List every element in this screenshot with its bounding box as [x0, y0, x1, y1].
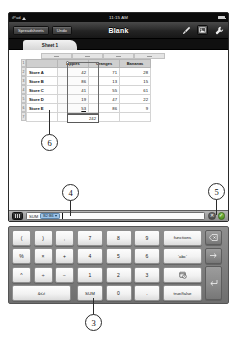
key-plus[interactable]: +	[55, 248, 74, 264]
spreadsheets-button[interactable]: Spreadsheets	[13, 26, 49, 35]
paintbrush-icon[interactable]	[181, 25, 191, 35]
cell-store-label[interactable]: Store D	[27, 95, 58, 104]
key-exponent[interactable]: ^	[12, 267, 31, 283]
document-canvas: 1 2 3 4 5 6 7 Apples Oranges Banana	[9, 50, 228, 221]
key-1[interactable]: 1	[77, 267, 103, 283]
keyboard-row: true/false	[163, 285, 202, 301]
sheet-tab-sheet1[interactable]: Sheet 1	[23, 40, 77, 50]
callout-5-leader-vertical	[216, 199, 217, 215]
accept-formula-button[interactable]: ✓	[218, 212, 226, 220]
cell-bananas[interactable]: 22	[120, 95, 151, 104]
table-row: Store C 41 55 61	[27, 86, 151, 95]
cell-bananas[interactable]: 15	[120, 77, 151, 86]
keyboard-row	[163, 267, 202, 283]
toolbar-right-group	[181, 25, 224, 35]
key-open-paren[interactable]: (	[12, 230, 31, 246]
return-key-icon	[209, 279, 218, 287]
key-sum[interactable]: SUM	[77, 285, 103, 301]
keyboard-row: functions	[163, 230, 202, 246]
cell-store-label[interactable]: Store C	[27, 86, 58, 95]
cancel-formula-button[interactable]: ✕	[208, 212, 216, 220]
key-5[interactable]: 5	[106, 248, 132, 264]
key-next-cell[interactable]	[205, 248, 222, 264]
keyboard-row: 4 5 6	[77, 248, 160, 264]
column-handle-icon	[85, 55, 90, 57]
cell-empty[interactable]	[120, 113, 151, 122]
key-3[interactable]: 3	[134, 267, 160, 283]
cell-apples[interactable]: 86	[58, 77, 89, 86]
insert-media-icon[interactable]	[197, 25, 208, 35]
cell-oranges[interactable]: 13	[89, 77, 120, 86]
status-bar-right	[218, 16, 225, 20]
callout-3-leader-vertical	[93, 298, 94, 315]
keyboard-row: 'abc'	[163, 248, 202, 264]
header-cell-oranges[interactable]: Oranges	[89, 60, 120, 68]
header-cell-bananas[interactable]: Bananas	[120, 60, 151, 68]
table-row: Store B 86 13 15	[27, 77, 151, 86]
callout-6: 6	[41, 134, 58, 151]
cell-empty[interactable]	[27, 113, 58, 122]
formula-result-cell[interactable]: 242	[67, 114, 99, 123]
cell-store-label[interactable]: Store B	[27, 77, 58, 86]
key-9[interactable]: 9	[134, 230, 160, 246]
callout-6-leader-vertical	[49, 110, 50, 135]
formula-function-name: SUM	[29, 214, 38, 219]
cell-apples[interactable]: 53	[58, 104, 89, 113]
header-cell-apples[interactable]: Apples	[58, 60, 89, 68]
calendar-clock-icon	[179, 271, 187, 279]
callout-4: 4	[62, 184, 79, 201]
key-0[interactable]: 0	[106, 285, 132, 301]
key-date-time[interactable]	[163, 267, 202, 283]
key-6[interactable]: 6	[134, 248, 160, 264]
key-divide[interactable]: ÷	[34, 267, 53, 283]
formula-range-token[interactable]: B2:B6	[40, 213, 60, 218]
keyboard-row: ^ ÷ −	[12, 267, 74, 283]
cell-bananas[interactable]: 9	[120, 104, 151, 113]
key-return[interactable]	[205, 266, 222, 300]
undo-button[interactable]: Undo	[52, 26, 72, 35]
keyboard-grip-icon[interactable]	[12, 212, 23, 220]
cell-store-label[interactable]: Store A	[27, 68, 58, 77]
cell-apples[interactable]: 41	[58, 86, 89, 95]
key-4[interactable]: 4	[77, 248, 103, 264]
formula-range-label: B2:B6	[43, 214, 53, 218]
key-8[interactable]: 8	[106, 230, 132, 246]
key-minus[interactable]: −	[55, 267, 74, 283]
key-true-false[interactable]: true/false	[163, 285, 202, 301]
cell-oranges[interactable]: 71	[89, 68, 120, 77]
wrench-icon[interactable]	[214, 25, 224, 35]
cell-oranges[interactable]: 86	[89, 104, 120, 113]
spreadsheet-table: 1 2 3 4 5 6 7 Apples Oranges Banana	[21, 53, 165, 122]
key-multiply[interactable]: ×	[34, 248, 53, 264]
text-caret	[62, 213, 63, 219]
key-decimal[interactable]: .	[134, 285, 160, 301]
table-row: Store A 42 71 28	[27, 68, 151, 77]
formula-bar: SUM B2:B6 ✕ ✓	[9, 210, 228, 221]
key-comma[interactable]: ,	[55, 230, 74, 246]
key-functions[interactable]: functions	[163, 230, 202, 246]
table-header-row: Apples Oranges Bananas	[27, 60, 151, 68]
cell-apples[interactable]: 19	[58, 95, 89, 104]
header-cell-blank[interactable]	[27, 60, 58, 68]
cell-apples[interactable]: 42	[58, 68, 89, 77]
key-close-paren[interactable]: )	[34, 230, 53, 246]
cell-bananas[interactable]: 61	[120, 86, 151, 95]
arrow-right-icon	[209, 252, 218, 259]
key-abc-text[interactable]: 'abc'	[163, 248, 202, 264]
cell-store-label[interactable]: Store E	[27, 104, 58, 113]
formula-input[interactable]: SUM B2:B6	[26, 212, 205, 220]
key-percent[interactable]: %	[12, 248, 31, 264]
key-2[interactable]: 2	[106, 267, 132, 283]
table-grid: Apples Oranges Bananas Store A 42 71 28 …	[26, 59, 151, 122]
key-delete[interactable]	[205, 230, 222, 246]
table-row: Store E 53 86 9	[27, 104, 151, 113]
table-row: Store D 19 47 22	[27, 95, 151, 104]
chevron-down-icon[interactable]	[55, 215, 57, 217]
cell-oranges[interactable]: 47	[89, 95, 120, 104]
delete-backward-icon	[209, 234, 218, 241]
battery-icon	[218, 16, 225, 20]
cell-bananas[interactable]: 28	[120, 68, 151, 77]
cell-oranges[interactable]: 55	[89, 86, 120, 95]
key-7[interactable]: 7	[77, 230, 103, 246]
key-comparison-operators[interactable]: &≤≠	[12, 285, 71, 301]
